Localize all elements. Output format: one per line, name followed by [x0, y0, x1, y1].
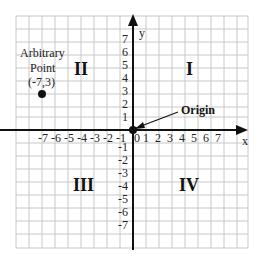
svg-text:6: 6 — [122, 45, 128, 59]
arbitrary-point-marker — [38, 90, 46, 98]
svg-text:4: 4 — [122, 71, 128, 85]
point-label-line2: Point — [30, 61, 56, 75]
svg-text:2: 2 — [122, 97, 128, 111]
x-axis-label: x — [242, 134, 248, 148]
svg-text:-4: -4 — [118, 179, 128, 193]
quadrant-label-iii: III — [73, 175, 94, 195]
point-label-line1: Arbitrary — [20, 46, 65, 60]
quadrant-label-iv: IV — [179, 175, 199, 195]
origin-label: Origin — [181, 103, 215, 117]
svg-text:-6: -6 — [118, 205, 128, 219]
svg-text:-2: -2 — [118, 153, 128, 167]
svg-text:-7: -7 — [118, 218, 128, 232]
y-axis-label: y — [139, 26, 145, 40]
svg-text:7: 7 — [122, 32, 128, 46]
svg-text:1: 1 — [122, 110, 128, 124]
x-tick-labels-positive: 0 1 2 3 4 5 6 7 — [134, 131, 221, 145]
point-label-coords: (-7,3) — [28, 75, 55, 89]
coordinate-plane: y x -7 -6 -5 -4 -3 -2 -1 0 1 2 3 4 5 6 7… — [0, 0, 260, 259]
origin-pointer-arrow-icon — [135, 122, 145, 129]
svg-text:-1: -1 — [118, 140, 128, 154]
svg-text:5: 5 — [122, 58, 128, 72]
x-tick-labels-negative: -7 -6 -5 -4 -3 -2 -1 — [38, 131, 126, 145]
quadrant-label-i: I — [186, 59, 193, 79]
quadrant-label-ii: II — [74, 59, 88, 79]
origin-marker — [129, 126, 137, 134]
svg-text:-5: -5 — [118, 192, 128, 206]
svg-text:3: 3 — [122, 84, 128, 98]
svg-text:-3: -3 — [118, 166, 128, 180]
